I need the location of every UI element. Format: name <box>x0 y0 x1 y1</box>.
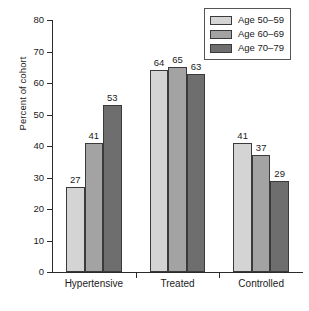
x-axis-tick <box>219 272 220 278</box>
bar <box>150 70 169 272</box>
bar <box>270 181 289 272</box>
bar <box>187 74 206 272</box>
y-axis-tick <box>47 83 52 84</box>
bar-value-label: 64 <box>154 58 165 68</box>
y-axis-tick-label: 60 <box>33 78 44 88</box>
legend: Age 50–59Age 60–69Age 70–79 <box>204 8 291 60</box>
bar-value-label: 41 <box>89 131 100 141</box>
x-axis-tick <box>136 272 137 278</box>
x-axis-category-label: Hypertensive <box>65 278 123 289</box>
legend-item: Age 60–69 <box>210 27 284 41</box>
y-axis-tick <box>47 209 52 210</box>
y-axis-tick-label: 70 <box>33 47 44 57</box>
bar <box>103 105 122 272</box>
bar-value-label: 37 <box>256 143 267 153</box>
bar <box>85 143 104 272</box>
bar-value-label: 65 <box>172 55 183 65</box>
legend-swatch-icon <box>210 30 232 39</box>
bar <box>66 187 85 272</box>
y-axis-tick-label: 10 <box>33 236 44 246</box>
bar-value-label: 27 <box>70 175 81 185</box>
bar <box>233 143 252 272</box>
y-axis-tick-label: 20 <box>33 204 44 214</box>
x-axis-category-label: Controlled <box>238 278 284 289</box>
y-axis-tick <box>47 241 52 242</box>
bar <box>252 155 271 272</box>
y-axis-tick <box>47 178 52 179</box>
legend-label: Age 70–79 <box>238 43 284 53</box>
y-axis-line <box>52 20 53 272</box>
y-axis-tick <box>47 20 52 21</box>
legend-item: Age 70–79 <box>210 41 284 55</box>
y-axis-label: Percent of cohort <box>17 24 28 164</box>
legend-label: Age 50–59 <box>238 15 284 25</box>
bar-value-label: 63 <box>191 62 202 72</box>
x-axis-category-label: Treated <box>160 278 194 289</box>
bar <box>168 67 187 272</box>
y-axis-tick <box>47 146 52 147</box>
legend-label: Age 60–69 <box>238 29 284 39</box>
bar-value-label: 53 <box>107 93 118 103</box>
y-axis-tick <box>47 272 52 273</box>
y-axis-tick-label: 50 <box>33 110 44 120</box>
legend-swatch-icon <box>210 16 232 25</box>
y-axis-tick-label: 40 <box>33 141 44 151</box>
y-axis-tick-label: 30 <box>33 173 44 183</box>
bar-chart: Percent of cohort 0102030405060708027415… <box>0 0 309 311</box>
y-axis-tick-label: 80 <box>33 15 44 25</box>
legend-item: Age 50–59 <box>210 13 284 27</box>
y-axis-tick <box>47 115 52 116</box>
bar-value-label: 29 <box>274 169 285 179</box>
y-axis-tick <box>47 52 52 53</box>
legend-swatch-icon <box>210 44 232 53</box>
y-axis-tick-label: 0 <box>39 267 44 277</box>
bar-value-label: 41 <box>237 131 248 141</box>
x-axis-line <box>52 272 303 273</box>
